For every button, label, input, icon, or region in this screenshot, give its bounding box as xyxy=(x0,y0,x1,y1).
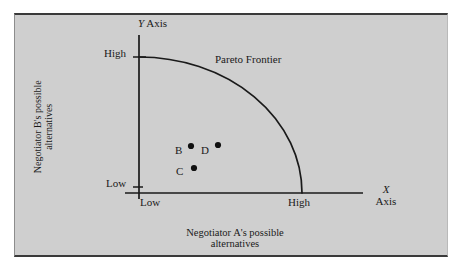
x-axis-tick-high: High xyxy=(288,197,310,209)
pareto-frontier-label: Pareto Frontier xyxy=(215,54,281,66)
y-axis-name-plain: Axis xyxy=(144,17,167,29)
data-point-B xyxy=(188,143,194,149)
x-axis-name: X Axis xyxy=(364,184,408,208)
x-axis-caption-line1: Negotiator A's possible xyxy=(125,227,345,238)
y-axis-name: Y Axis xyxy=(138,18,167,30)
x-axis-caption-line2: alternatives xyxy=(125,238,345,249)
x-axis-name-plain: Axis xyxy=(364,196,408,208)
y-axis-tick-low: Low xyxy=(106,178,126,190)
y-axis-caption: Negotiator B's possible alternatives xyxy=(33,47,55,207)
plot-graphics xyxy=(15,15,449,259)
pareto-frontier-curve xyxy=(139,57,302,193)
plot-surface: Y Axis X Axis High Low Low High Pareto F… xyxy=(15,15,447,255)
y-axis-caption-line2: alternatives xyxy=(44,47,55,207)
data-point-C xyxy=(191,165,197,171)
data-point-D xyxy=(215,142,221,148)
data-point-label-D: D xyxy=(201,145,209,157)
data-point-label-B: B xyxy=(175,145,182,157)
figure-root: Y Axis X Axis High Low Low High Pareto F… xyxy=(0,0,462,271)
x-axis-caption: Negotiator A's possible alternatives xyxy=(125,227,345,250)
data-point-label-C: C xyxy=(176,166,183,178)
y-axis-tick-high: High xyxy=(104,48,126,60)
diagram-panel: Y Axis X Axis High Low Low High Pareto F… xyxy=(14,13,448,257)
x-axis-tick-low: Low xyxy=(140,197,160,209)
